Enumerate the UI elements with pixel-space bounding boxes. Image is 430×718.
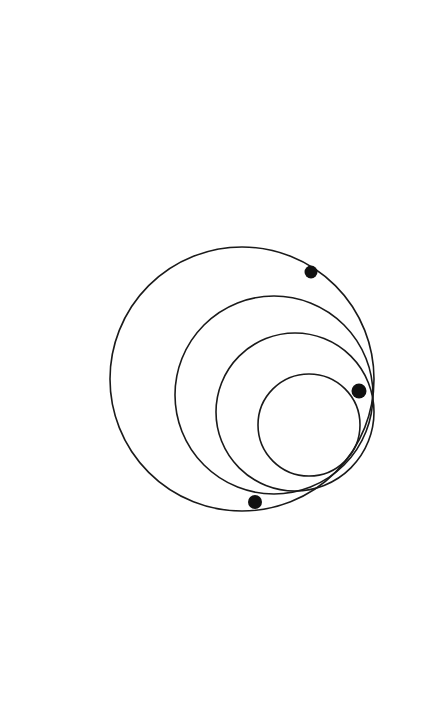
- circle-inner: [258, 374, 360, 476]
- figure-canvas: [0, 0, 430, 718]
- circle-third: [216, 333, 374, 491]
- dot-upper-right: [305, 266, 318, 279]
- circle-group: [110, 247, 374, 511]
- dot-bottom: [248, 495, 262, 509]
- dot-right: [352, 384, 367, 399]
- nested-circles-figure: [0, 0, 430, 718]
